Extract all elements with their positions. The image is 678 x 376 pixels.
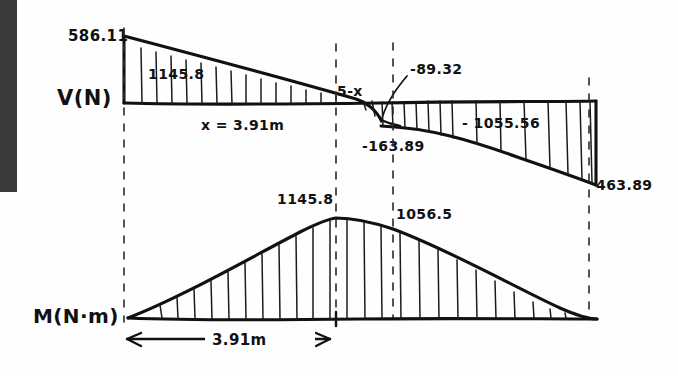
shear-diagram-group: 586.11 1145.8 x = 3.91m 5-x -89.32 -163.…	[57, 27, 652, 193]
moment-dimension-label-top: 3.91m	[212, 331, 267, 349]
moment-axis-label: M(N·m)	[33, 304, 119, 328]
drawing-sheet: 586.11 1145.8 x = 3.91m 5-x -89.32 -163.…	[0, 0, 678, 376]
moment-secondary-label: 1056.5	[396, 206, 452, 222]
moment-hatching	[160, 219, 566, 319]
moment-diagram-group: 1145.8 1056.5 M(N·m) 3.91m	[33, 191, 597, 349]
shear-axis-label: V(N)	[57, 86, 112, 110]
shear-segment-expression-label: 5-x	[337, 83, 363, 99]
moment-baseline	[128, 318, 597, 320]
shear-start-value-label: 586.11	[68, 27, 128, 45]
shear-step-drop-label: -89.32	[410, 61, 463, 77]
diagram-canvas: 586.11 1145.8 x = 3.91m 5-x -89.32 -163.…	[0, 0, 678, 376]
shear-negative-area-label: - 1055.56	[462, 115, 540, 131]
shear-step-leader	[381, 76, 407, 122]
moment-curve	[128, 218, 597, 319]
shear-end-value-label: 463.89	[596, 177, 652, 193]
shear-negative-curve	[381, 126, 596, 185]
shear-zero-crossing-label: x = 3.91m	[201, 117, 284, 133]
moment-peak-label: 1145.8	[277, 191, 333, 207]
shear-positive-area-label: 1145.8	[148, 66, 204, 82]
